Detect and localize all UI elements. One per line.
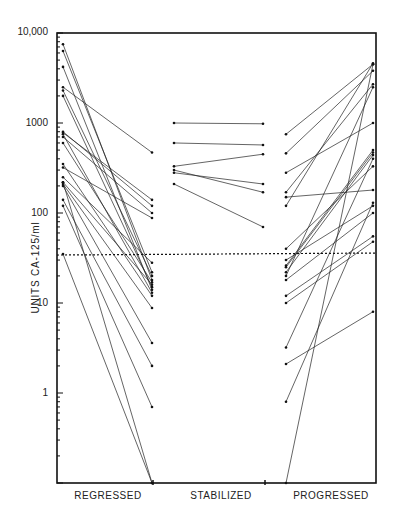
y-tick-1: 1 [6,387,48,398]
category-stabilized: STABILIZED [166,490,276,501]
reference-line-35 [57,253,376,255]
y-tick-100: 100 [6,207,48,218]
category-progressed: PROGRESSED [276,490,386,501]
chart-plot [0,0,400,522]
category-regressed: REGRESSED [53,490,163,501]
y-axis-ticks [57,33,265,485]
data-lines [62,43,375,484]
y-tick-1000: 1000 [6,117,48,128]
y-tick-10000: 10,000 [6,26,48,37]
y-axis-label: UNITS CA-125/ml [30,213,41,323]
y-tick-10: 10 [6,297,48,308]
